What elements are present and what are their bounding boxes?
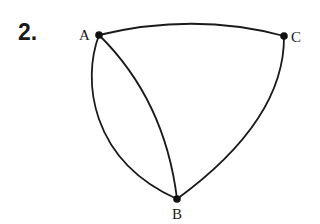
vertex-label-a: A xyxy=(79,27,90,43)
vertex-label-b: B xyxy=(172,206,182,222)
vertex-b xyxy=(173,195,181,203)
graph-diagram: A C B xyxy=(0,0,320,224)
edge-c-b xyxy=(177,36,284,199)
vertex-a xyxy=(95,31,103,39)
vertex-c xyxy=(280,32,288,40)
edge-a-c xyxy=(99,24,284,36)
vertex-label-c: C xyxy=(291,29,301,45)
edge-a-b-outer xyxy=(92,35,177,199)
